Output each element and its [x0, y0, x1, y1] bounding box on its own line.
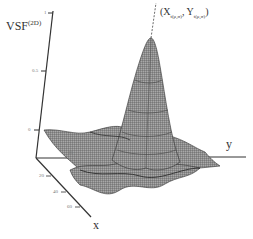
z-axis-label: VSF(2D): [6, 19, 41, 34]
x-axis-label: x: [93, 218, 99, 233]
z-tick-0-5: 0.5: [32, 68, 38, 73]
peak-annotation: (Xt(μ,σ), Yt(μ,σ)): [160, 6, 208, 19]
z-tick-0: 0: [28, 127, 31, 132]
peak-marker-line: [151, 3, 156, 38]
annotation-x: (X: [160, 6, 171, 17]
annotation-x-subscript: t(μ,σ): [171, 14, 182, 19]
surface-mesh: [44, 38, 220, 194]
x-tick-40: 40: [53, 189, 58, 194]
x-tick-60: 60: [67, 204, 72, 209]
z-axis-label-superscript: (2D): [28, 19, 41, 27]
annotation-y-subscript: t(μ,σ): [194, 14, 205, 19]
z-axis-label-text: VSF: [6, 19, 28, 33]
annotation-close: ): [205, 6, 208, 17]
surface-plot: [0, 0, 253, 239]
x-tick-20: 20: [39, 173, 44, 178]
y-tick-20: 20: [68, 150, 73, 155]
y-axis-label: y: [226, 137, 232, 152]
annotation-y: , Y: [182, 6, 194, 17]
z-tick-1: 1: [44, 10, 47, 15]
